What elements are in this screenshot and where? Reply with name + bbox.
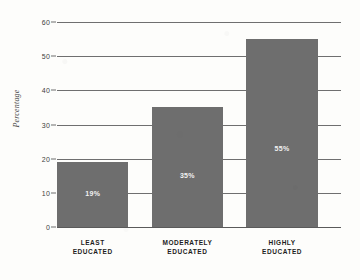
x-category-label: HIGHLYEDUCATED xyxy=(262,238,302,257)
x-category-label: LEASTEDUCATED xyxy=(73,238,113,257)
plot-area: 0102030405060 19%LEASTEDUCATED35%MODERAT… xyxy=(57,22,341,227)
category-label-line: HIGHLY xyxy=(268,239,295,246)
y-tick-label: 20 xyxy=(42,155,50,162)
y-axis-title: Percentage xyxy=(12,79,21,139)
bar[interactable] xyxy=(152,107,223,227)
category-label-line: EDUCATED xyxy=(73,248,113,255)
category-label-line: EDUCATED xyxy=(167,248,207,255)
y-tick-label: 50 xyxy=(42,53,50,60)
category-label-line: EDUCATED xyxy=(262,248,302,255)
gridline: 0 xyxy=(57,227,341,228)
y-tick-label: 10 xyxy=(42,189,50,196)
bar[interactable] xyxy=(246,39,317,227)
bar-group: 19%LEASTEDUCATED xyxy=(57,162,128,227)
bar-group: 55%HIGHLYEDUCATED xyxy=(246,39,317,227)
y-tick-mark xyxy=(51,124,56,125)
bar-value-label: 19% xyxy=(57,190,128,197)
y-tick-mark xyxy=(51,56,56,57)
y-tick-mark xyxy=(51,22,56,23)
bar-group: 35%MODERATELYEDUCATED xyxy=(152,107,223,227)
category-label-line: LEAST xyxy=(81,239,105,246)
y-tick-mark xyxy=(51,158,56,159)
y-tick-label: 30 xyxy=(42,121,50,128)
bar-value-label: 55% xyxy=(246,145,317,152)
y-tick-label: 60 xyxy=(42,19,50,26)
bars: 19%LEASTEDUCATED35%MODERATELYEDUCATED55%… xyxy=(57,22,341,227)
y-tick-mark xyxy=(51,227,56,228)
y-tick-label: 0 xyxy=(46,224,50,231)
y-tick-label: 40 xyxy=(42,87,50,94)
category-label-line: MODERATELY xyxy=(162,239,212,246)
bar-value-label: 35% xyxy=(152,172,223,179)
y-tick-mark xyxy=(51,192,56,193)
y-tick-mark xyxy=(51,90,56,91)
bar-chart: Percentage 0102030405060 19%LEASTEDUCATE… xyxy=(0,0,360,280)
x-category-label: MODERATELYEDUCATED xyxy=(162,238,212,257)
